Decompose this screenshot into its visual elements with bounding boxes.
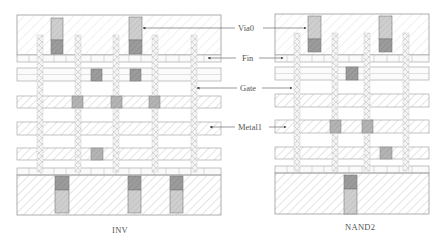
label-metal1: Metal1 — [238, 123, 262, 132]
label-fin: Fin — [242, 54, 253, 63]
layout-diagram — [0, 0, 442, 244]
nand2-cell — [275, 14, 429, 214]
label-via0: Via0 — [238, 24, 254, 33]
caption-nand2: NAND2 — [345, 223, 375, 232]
label-gate: Gate — [240, 84, 256, 93]
inv-cell — [17, 15, 221, 215]
caption-inv: INV — [112, 226, 128, 235]
